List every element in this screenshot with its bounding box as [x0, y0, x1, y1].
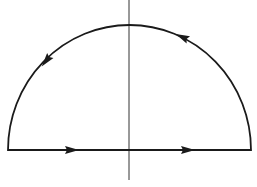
arrowhead-icon [65, 146, 79, 154]
direction-arrows [39, 30, 195, 154]
contour-diagram [0, 0, 257, 187]
arrowhead-icon [181, 146, 195, 154]
arrowhead-icon [174, 30, 190, 43]
